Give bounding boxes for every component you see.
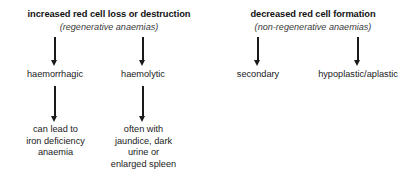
- node-secondary: secondary: [208, 70, 308, 79]
- branch-heading-decreased-formation: decreased red cell formation (non-regene…: [210, 10, 416, 32]
- arrow-shaft: [54, 86, 55, 116]
- arrow-head: [254, 60, 260, 66]
- detail-line: enlarged spleen: [88, 159, 199, 171]
- flowchart-canvas: increased red cell loss or destruction (…: [0, 0, 416, 173]
- node-haemolytic: haemolytic: [93, 70, 193, 79]
- branch-heading-increased-loss: increased red cell loss or destruction (…: [0, 10, 218, 32]
- down-arrow-icon-to-haemorrhagic: [47, 37, 63, 66]
- branch-title: increased red cell loss or destruction: [0, 10, 218, 19]
- arrow-head: [51, 60, 57, 66]
- arrow-head: [354, 60, 360, 66]
- branch-title: decreased red cell formation: [210, 10, 416, 19]
- detail-haemolytic: often with jaundice, dark urine or enlar…: [88, 124, 199, 170]
- arrow-shaft: [142, 86, 143, 116]
- arrow-head: [51, 116, 57, 122]
- detail-line: often with: [88, 124, 199, 136]
- arrow-shaft: [357, 37, 358, 60]
- down-arrow-icon-to-secondary: [250, 37, 266, 66]
- down-arrow-icon-haemolytic-detail: [135, 86, 151, 122]
- arrow-head: [139, 60, 145, 66]
- detail-line: urine or: [88, 147, 199, 159]
- down-arrow-icon-to-haemolytic: [135, 37, 151, 66]
- detail-line: jaundice, dark: [88, 136, 199, 148]
- down-arrow-icon-haemorrhagic-detail: [47, 86, 63, 122]
- branch-subtitle: (regenerative anaemias): [0, 23, 218, 32]
- branch-subtitle: (non-regenerative anaemias): [210, 23, 416, 32]
- arrow-shaft: [257, 37, 258, 60]
- arrow-shaft: [54, 37, 55, 60]
- arrow-head: [139, 116, 145, 122]
- down-arrow-icon-to-hypoplastic: [350, 37, 366, 66]
- arrow-shaft: [142, 37, 143, 60]
- node-hypoplastic-aplastic: hypoplastic/aplastic: [296, 70, 416, 79]
- node-haemorrhagic: haemorrhagic: [5, 70, 105, 79]
